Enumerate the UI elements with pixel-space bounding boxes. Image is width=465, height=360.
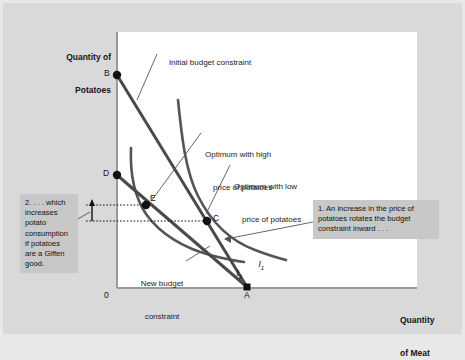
point-c	[203, 217, 211, 225]
annotation-new-budget-line2: constraint	[131, 311, 193, 322]
annotation-initial-budget-constraint: Initial budget constraint	[160, 46, 251, 79]
point-label-d: D	[103, 168, 109, 178]
callout-giffen: 2. . . . which increases potato consumpt…	[20, 194, 78, 273]
x-axis-title: Quantity of Meat	[400, 293, 462, 360]
annotation-initial-budget-text: Initial budget constraint	[169, 58, 251, 67]
point-label-b: B	[104, 68, 110, 78]
x-axis-title-line2: of Meat	[400, 348, 462, 359]
curve-label-i1: I1	[249, 249, 264, 281]
curve-label-i2: I2	[227, 258, 242, 290]
annotation-optimum-low-line2: price of potatoes	[234, 214, 301, 225]
y-axis-title: Quantity of Potatoes	[45, 30, 111, 118]
point-e	[142, 201, 150, 209]
point-b	[113, 71, 121, 79]
y-axis-title-line2: Potatoes	[45, 85, 111, 96]
point-label-a: A	[244, 290, 250, 300]
leader-initial-budget	[137, 54, 157, 100]
origin-label: 0	[104, 290, 109, 300]
annotation-new-budget-constraint: New budget constraint	[131, 256, 193, 344]
annotation-optimum-low-line1: Optimum with low	[234, 181, 301, 192]
callout-price-increase-text: 1. An increase in the price of potatoes …	[318, 204, 414, 233]
curve-label-i1-sub: 1	[261, 265, 264, 271]
consumption-increase-arrow-head	[89, 199, 95, 206]
callout-giffen-text: 2. . . . which increases potato consumpt…	[25, 198, 68, 268]
point-d	[113, 171, 121, 179]
y-axis-title-line1: Quantity of	[45, 52, 111, 63]
x-axis-title-line1: Quantity	[400, 315, 462, 326]
point-label-e: E	[150, 193, 156, 203]
leader-callout-price-arrow	[224, 235, 231, 243]
curve-label-i2-sub: 2	[239, 274, 242, 280]
annotation-new-budget-line1: New budget	[131, 278, 193, 289]
annotation-optimum-low-price: Optimum with low price of potatoes	[234, 159, 301, 247]
callout-price-increase: 1. An increase in the price of potatoes …	[313, 200, 439, 239]
